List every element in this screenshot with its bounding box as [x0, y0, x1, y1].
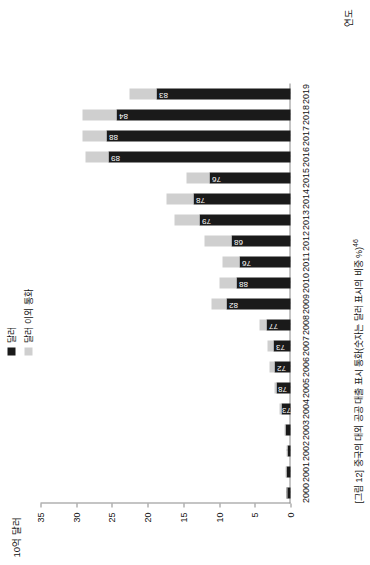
- x-axis-tick-label: 2009: [300, 293, 310, 313]
- x-axis-tick-label: 2017: [300, 125, 310, 145]
- chart-legend: 달러 달러 이외 통화: [4, 289, 38, 355]
- x-axis-tick-label: 2011: [300, 252, 310, 271]
- bar-group: 83: [129, 88, 290, 99]
- bar-group: 72: [269, 361, 290, 372]
- figure-page: 달러 달러 이외 통화 10억 달러 연도 051015202530352000…: [0, 0, 370, 565]
- bar-value-label: 76: [212, 174, 221, 182]
- x-axis-tick-label: 2002: [300, 440, 310, 460]
- bar-group: 76: [222, 256, 290, 267]
- bar-segment-dollar: 73: [281, 403, 290, 414]
- y-axis-tick: [254, 503, 255, 507]
- bar-segment-dollar: 76: [239, 256, 290, 267]
- figure-caption-text: [그림 12] 중국의 대외 공공 대출 표시 통화(숫자는 달러 표시의 비중…: [353, 246, 363, 503]
- bar-group: 88: [82, 130, 290, 141]
- x-axis-title: 연도: [340, 8, 354, 26]
- bar-segment-dollar: 79: [199, 214, 290, 225]
- bar-value-label: 79: [201, 216, 210, 224]
- bar-value-label: 72: [277, 363, 286, 371]
- bar-segment-other-currency: [285, 466, 286, 477]
- x-axis-tick-label: 2018: [300, 104, 310, 124]
- bar-segment-other-currency: [211, 298, 225, 309]
- bar-value-label: 68: [234, 237, 243, 245]
- x-axis-tick-label: 2019: [300, 83, 310, 103]
- legend-swatch-other-icon: [24, 347, 32, 355]
- y-axis-line: [40, 502, 290, 503]
- x-axis-tick-label: 2006: [300, 356, 310, 376]
- bar-value-label: 78: [278, 384, 287, 392]
- y-axis-tick-label: 20: [142, 512, 152, 522]
- bar-value-label: 88: [108, 132, 117, 140]
- bar-value-label: 77: [268, 321, 277, 329]
- legend-item-dollar: 달러: [4, 289, 17, 355]
- bar-segment-other-currency: [279, 403, 281, 414]
- bar-segment-dollar: 84: [116, 109, 290, 120]
- bar-group: 77: [259, 319, 290, 330]
- x-axis-tick-label: 2000: [300, 482, 310, 502]
- y-axis-tick: [290, 503, 291, 507]
- y-axis-title: 10억 달러: [8, 517, 22, 557]
- y-axis-tick: [76, 503, 77, 507]
- y-axis-tick-label: 0: [285, 512, 295, 517]
- bar-group: 88: [219, 277, 290, 288]
- x-axis-tick-label: 2016: [300, 146, 310, 166]
- y-axis-tick: [183, 503, 184, 507]
- bar-value-label: 83: [159, 90, 168, 98]
- bar-segment-dollar: 73: [273, 340, 290, 351]
- bar-value-label: 89: [110, 153, 119, 161]
- x-axis-tick-label: 2010: [300, 272, 310, 292]
- bar-group: 68: [204, 235, 290, 246]
- x-axis-tick-label: 2001: [300, 461, 310, 481]
- bar-segment-other-currency: [274, 382, 276, 393]
- bar-segment-other-currency: [82, 109, 116, 120]
- bar-value-label: 82: [228, 300, 237, 308]
- bar-segment-other-currency: [129, 88, 156, 99]
- bar-segment-dollar: 88: [236, 277, 290, 288]
- bar-segment-dollar: 68: [231, 235, 290, 246]
- x-axis-tick-label: 2014: [300, 188, 310, 208]
- bar-group: 82: [211, 298, 290, 309]
- bar-segment-dollar: 78: [276, 382, 290, 393]
- bar-segment-other-currency: [222, 256, 238, 267]
- bar-value-label: 78: [195, 195, 204, 203]
- x-axis-tick-label: 2005: [300, 377, 310, 397]
- bar-segment-dollar: 83: [156, 88, 290, 99]
- bar-group: [284, 424, 290, 435]
- x-axis-tick-label: 2012: [300, 230, 310, 250]
- rotated-figure-stage: 달러 달러 이외 통화 10억 달러 연도 051015202530352000…: [0, 0, 370, 565]
- bar-group: 84: [82, 109, 290, 120]
- x-axis-tick-label: 2008: [300, 314, 310, 334]
- plot-area: 0510152025303520002001200220032004732005…: [40, 83, 290, 503]
- bar-group: [286, 487, 290, 498]
- bar-segment-dollar: [285, 424, 290, 435]
- y-axis-tick-label: 15: [178, 512, 188, 522]
- legend-label-dollar: 달러: [4, 326, 17, 342]
- y-axis-tick-label: 25: [106, 512, 116, 522]
- bar-segment-other-currency: [284, 424, 285, 435]
- bar-segment-dollar: 77: [266, 319, 290, 330]
- bar-segment-dollar: 76: [209, 172, 290, 183]
- bar-value-label: 76: [241, 258, 250, 266]
- bar-group: 89: [85, 151, 290, 162]
- figure-caption-footnote: 46: [351, 239, 358, 247]
- x-axis-line: [289, 83, 290, 503]
- bar-segment-dollar: 82: [226, 298, 290, 309]
- bar-segment-other-currency: [286, 445, 287, 456]
- bar-segment-other-currency: [219, 277, 236, 288]
- bar-segment-other-currency: [186, 172, 209, 183]
- legend-label-other-currency: 달러 이외 통화: [21, 289, 34, 342]
- bar-segment-other-currency: [259, 319, 266, 330]
- bar-group: 78: [166, 193, 290, 204]
- y-axis-tick-label: 5: [249, 512, 259, 517]
- x-axis-tick-label: 2003: [300, 419, 310, 439]
- bar-segment-dollar: [286, 487, 290, 498]
- figure-caption: [그림 12] 중국의 대외 공공 대출 표시 통화(숫자는 달러 표시의 비중…: [351, 239, 364, 503]
- bar-segment-dollar: 89: [108, 151, 290, 162]
- y-axis-tick-label: 30: [71, 512, 81, 522]
- bar-segment-dollar: [286, 466, 290, 477]
- y-axis-tick: [40, 503, 41, 507]
- bar-group: 73: [267, 340, 290, 351]
- bar-group: 73: [279, 403, 290, 414]
- bar-group: 76: [186, 172, 290, 183]
- legend-swatch-dollar-icon: [7, 347, 15, 355]
- bar-segment-dollar: 78: [193, 193, 290, 204]
